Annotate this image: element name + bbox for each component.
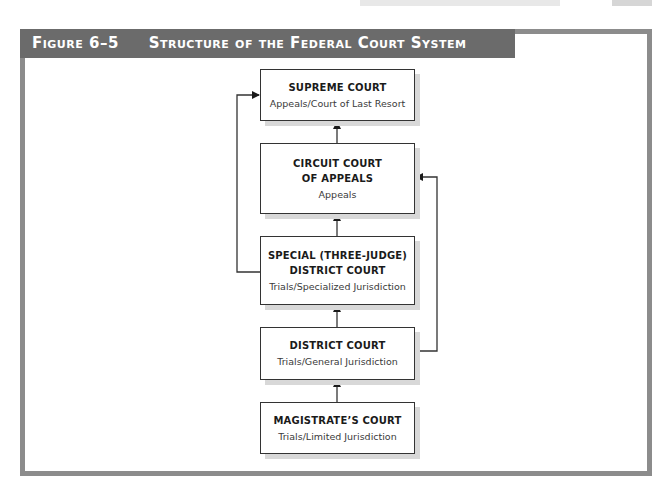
court-jurisdiction: Trials/Specialized Jurisdiction (269, 279, 406, 294)
court-title: SUPREME COURT (288, 80, 386, 95)
figure-number: Figure 6–5 (32, 34, 119, 52)
court-jurisdiction: Appeals/Court of Last Resort (270, 96, 406, 111)
court-title: DISTRICT COURT (290, 338, 386, 353)
court-title-line-2: DISTRICT COURT (290, 263, 386, 278)
court-box-district: DISTRICT COURT Trials/General Jurisdicti… (260, 327, 415, 380)
page-number (612, 0, 652, 6)
court-title-line-1: CIRCUIT COURT (293, 156, 382, 171)
running-header (360, 0, 560, 6)
court-box-special: SPECIAL (THREE-JUDGE) DISTRICT COURT Tri… (260, 236, 415, 305)
court-box-magistrate: MAGISTRATE’S COURT Trials/Limited Jurisd… (260, 402, 415, 454)
court-jurisdiction: Appeals (319, 187, 357, 202)
court-box-supreme: SUPREME COURT Appeals/Court of Last Reso… (260, 69, 415, 121)
figure-header: Figure 6–5 Structure of the Federal Cour… (20, 29, 515, 58)
court-box-circuit: CIRCUIT COURT OF APPEALS Appeals (260, 143, 415, 214)
court-title-line-1: SPECIAL (THREE-JUDGE) (268, 248, 407, 263)
court-title-line-2: OF APPEALS (302, 171, 373, 186)
court-title: MAGISTRATE’S COURT (273, 413, 401, 428)
figure-title: Structure of the Federal Court System (149, 34, 467, 52)
court-jurisdiction: Trials/Limited Jurisdiction (278, 429, 396, 444)
court-jurisdiction: Trials/General Jurisdiction (277, 354, 397, 369)
